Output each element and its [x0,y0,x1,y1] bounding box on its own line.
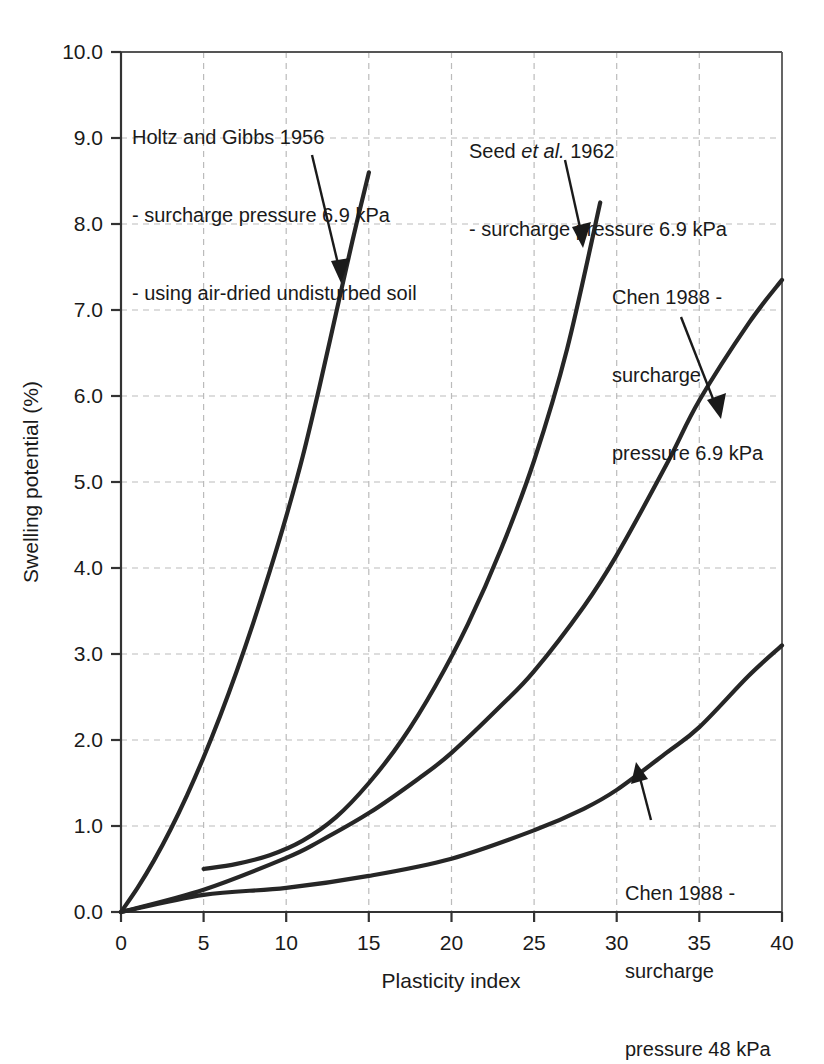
annotation-holtz-line1: Holtz and Gibbs 1956 [132,124,417,150]
annotation-seed-line1-italic: et al. [521,140,564,162]
y-tick-label: 7.0 [74,298,103,321]
y-tick-label: 4.0 [74,556,103,579]
x-tick-label: 20 [440,931,463,954]
annotation-chen48-line1: Chen 1988 - [625,880,771,906]
y-tick-label: 8.0 [74,212,103,235]
annotation-chen-48kpa: Chen 1988 - surcharge pressure 48 kPa [625,828,771,1064]
y-tick-label: 0.0 [74,900,103,923]
annotation-holtz-line3: - using air-dried undisturbed soil [132,280,417,306]
annotation-chen69-line1: Chen 1988 - [612,284,763,310]
x-tick-label: 0 [115,931,127,954]
x-tick-label: 5 [198,931,210,954]
x-axis-title: Plasticity index [382,969,521,992]
annotation-chen69-line2: surcharge [612,362,763,388]
y-tick-labels: 0.0 1.0 2.0 3.0 4.0 5.0 6.0 7.0 8.0 9.0 … [62,40,103,923]
y-tick-label: 1.0 [74,814,103,837]
annotation-seed-line1-pre: Seed [469,140,521,162]
annotation-chen69-line3: pressure 6.9 kPa [612,440,763,466]
y-axis-title: Swelling potential (%) [19,381,42,583]
y-tick-label: 5.0 [74,470,103,493]
annotation-chen-6-9kpa: Chen 1988 - surcharge pressure 6.9 kPa [612,232,763,518]
y-tickmarks [111,52,121,912]
x-tick-label: 25 [522,931,545,954]
annotation-chen48-line2: surcharge [625,958,771,984]
x-tick-label: 40 [770,931,793,954]
y-tick-label: 2.0 [74,728,103,751]
y-tick-label: 10.0 [62,40,103,63]
y-tick-label: 9.0 [74,126,103,149]
y-tick-label: 6.0 [74,384,103,407]
annotation-holtz-line2: - surcharge pressure 6.9 kPa [132,202,417,228]
annotation-chen48-line3: pressure 48 kPa [625,1036,771,1062]
annotation-holtz-and-gibbs: Holtz and Gibbs 1956 - surcharge pressur… [132,72,417,358]
x-tick-label: 10 [275,931,298,954]
annotation-seed-line1: Seed et al. 1962 [469,138,727,164]
annotation-seed-line1-post: 1962 [565,140,615,162]
x-tick-label: 15 [357,931,380,954]
y-tick-label: 3.0 [74,642,103,665]
leader-arrowhead-chen48 [631,762,648,784]
leader-line-chen48 [640,778,651,820]
